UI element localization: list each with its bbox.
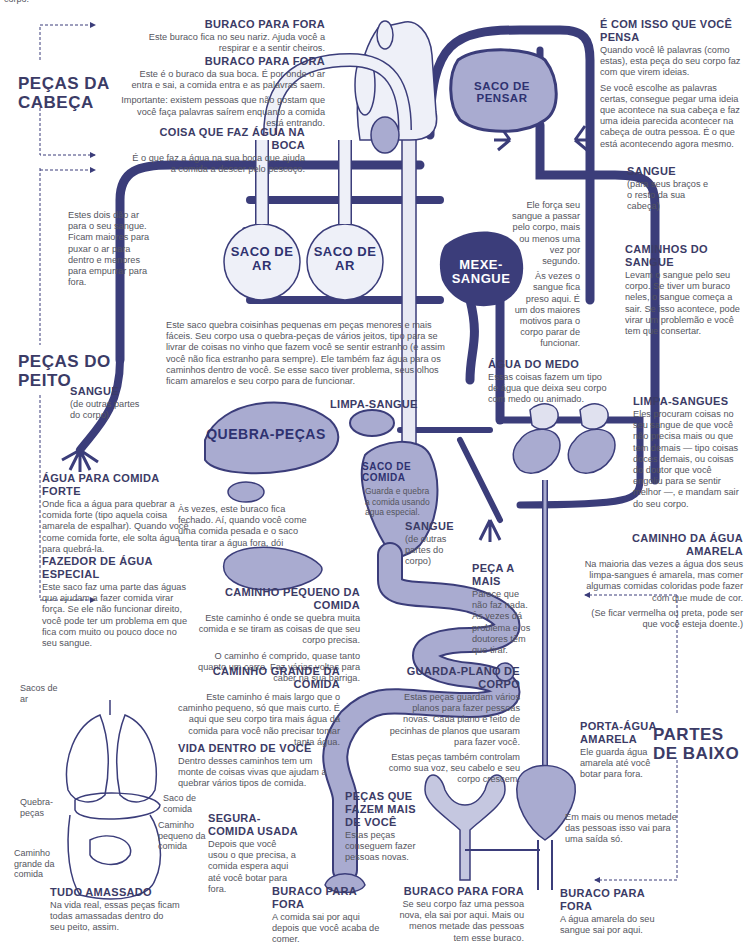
label-blood-stomach-title: SANGUE — [405, 520, 460, 533]
label-nose: BURACO PARA FORA Este buraco fica no seu… — [130, 18, 325, 58]
organ-stomach-desc: Guarda e quebra a comida usando água esp… — [365, 486, 433, 518]
label-brain-text: Quando você lê palavras (como estas), es… — [600, 45, 745, 79]
label-large-intestine-text: Este caminho é mais largo que o caminho … — [170, 692, 340, 748]
label-blood-stomach-text: (de outras partes do corpo) — [405, 534, 460, 568]
label-anus-text: A comida sai por aqui depois que você ac… — [272, 912, 387, 946]
label-lungs: Estes dois dão ar para o seu sangue. Fic… — [68, 210, 153, 292]
label-gut-flora-title: VIDA DENTRO DE VOCÊ — [178, 742, 328, 755]
label-ureter-text: Na maioria das vezes a água dos seus lim… — [578, 559, 743, 604]
organ-stomach-label: SACO DE COMIDA — [362, 462, 432, 483]
label-blood-arms: SANGUE (para seus braços e o resto da su… — [627, 165, 712, 217]
label-liver-text: Este saco quebra coisinhas pequenas em p… — [166, 320, 456, 387]
label-vagina-title: BURACO PARA FORA — [394, 885, 524, 898]
salivary-gland — [371, 117, 399, 153]
label-vessels-text: Levam o sangue pelo seu corpo. Se tiver … — [625, 270, 745, 337]
label-urethra: BURACO PARA FORA A água amarela do seu s… — [560, 887, 680, 940]
label-saliva-text: É o que faz a água na sua boca que ajuda… — [130, 153, 305, 175]
organ-lung-left-label: SACO DE AR — [226, 245, 298, 272]
label-blood-arms-text: (para seus braços e o resto da sua cabeç… — [627, 179, 712, 213]
label-urethra-note: Em mais ou menos metade das pessoas isso… — [565, 812, 680, 850]
label-brain: É COM ISSO QUE VOCÊ PENSA Quando você lê… — [600, 18, 745, 154]
organ-lung-right-label: SACO DE AR — [309, 245, 381, 272]
label-blood-lower-title: SANGUE — [70, 385, 150, 398]
organ-brain-label: SACO DE PENSAR — [452, 80, 552, 104]
label-gut-flora: VIDA DENTRO DE VOCÊ Dentro desses caminh… — [178, 742, 328, 794]
label-gallbladder: ÁGUA PARA COMIDA FORTE Onde fica a água … — [42, 472, 192, 559]
label-anus-title: BURACO PARA FORA — [272, 885, 387, 911]
label-saliva: COISA QUE FAZ ÁGUA NA BOCA É o que faz a… — [130, 126, 305, 179]
spleen-shape — [350, 410, 394, 436]
label-spleen-title: LIMPA-SANGUE — [330, 398, 420, 411]
label-heart-text2: Às vezes o sangue fica preso aqui. É um … — [512, 271, 580, 349]
label-gallbladder-text: Onde fica a água para quebrar a comida f… — [42, 499, 192, 555]
label-rectum-title: SEGURA-COMIDA USADA — [208, 812, 298, 838]
label-small-intestine-text: Este caminho é onde se quebra muita comi… — [190, 613, 360, 647]
label-uterus-title: PEÇAS QUE FAZEM MAIS DE VOCÊ — [345, 790, 435, 829]
label-ovaries-text2: Estas peças também controlam como sua vo… — [385, 752, 520, 786]
label-nose-title: BURACO PARA FORA — [130, 18, 325, 31]
label-brain-title: É COM ISSO QUE VOCÊ PENSA — [600, 18, 745, 44]
inset-text: Na vida real, essas peças ficam todas am… — [50, 900, 180, 934]
label-small-intestine-title: CAMINHO PEQUENO DA COMIDA — [190, 586, 360, 612]
inset-callout-large-intestine: Caminho grande da comida — [14, 848, 69, 880]
label-liver: Este saco quebra coisinhas pequenas em p… — [166, 320, 456, 391]
label-mouth-text: Este é o buraco da sua boca. É por onde … — [120, 69, 325, 91]
label-spleen: LIMPA-SANGUE — [330, 398, 420, 412]
label-vagina: BURACO PARA FORA Se seu corpo faz uma pe… — [394, 885, 524, 946]
label-saliva-title: COISA QUE FAZ ÁGUA NA BOCA — [130, 126, 305, 152]
label-ureter: CAMINHO DA ÁGUA AMARELA Na maioria das v… — [578, 532, 743, 634]
label-vessels-title: CAMINHOS DO SANGUE — [625, 243, 745, 269]
label-heart-text: Ele força seu sangue a passar pelo corpo… — [512, 200, 580, 267]
uterus-shape — [425, 775, 505, 880]
label-vagina-text: Se seu corpo faz uma pessoa nova, ela sa… — [394, 899, 524, 944]
kidneys — [513, 404, 615, 473]
label-urethra-title: BURACO PARA FORA — [560, 887, 680, 913]
urethra-shape — [538, 840, 552, 890]
label-kidneys-text: Eles procuram coisas no seu sangue de qu… — [633, 409, 743, 510]
label-lungs-text: Estes dois dão ar para o seu sangue. Fic… — [68, 210, 153, 288]
label-pancreas-text: Este saco faz uma parte das águas que aj… — [42, 582, 192, 649]
label-blood-lower: SANGUE (de outras partes do corpo) — [70, 385, 150, 425]
section-lower-title: PARTES DE BAIXO — [653, 725, 743, 763]
label-pancreas: FAZEDOR DE ÁGUA ESPECIAL Este saco faz u… — [42, 555, 192, 653]
label-uterus: PEÇAS QUE FAZEM MAIS DE VOCÊ Estas peças… — [345, 790, 435, 868]
label-vessels: CAMINHOS DO SANGUE Levam o sangue pelo s… — [625, 243, 745, 341]
label-appendix-title: PEÇA A MAIS — [472, 562, 534, 588]
label-brain-text2: Se você escolhe as palavras certas, cons… — [600, 83, 745, 150]
label-gallbladder-title: ÁGUA PARA COMIDA FORTE — [42, 472, 192, 498]
label-ureter-text2: (Se ficar vermelha ou preta, pode ser qu… — [578, 608, 743, 630]
inset-callout-stomach: Saco de comida — [163, 793, 203, 814]
pancreas-shape — [224, 547, 322, 590]
label-kidneys: LIMPA-SANGUES Eles procuram coisas no se… — [633, 395, 743, 514]
label-nose-text: Este buraco fica no seu nariz. Ajuda voc… — [130, 32, 325, 54]
gallbladder-shape — [228, 482, 264, 502]
inset-title: TUDO AMASSADO — [50, 886, 180, 899]
label-ovaries: GUARDA-PLANO DE CORPO Estas peças guarda… — [385, 665, 520, 790]
label-adrenal-title: ÁGUA DO MEDO — [488, 358, 608, 371]
label-urethra-text: A água amarela do seu sangue sai por aqu… — [560, 914, 680, 936]
label-large-intestine: CAMINHO GRANDE DA COMIDA Este caminho é … — [170, 665, 340, 752]
label-ovaries-text: Estas peças guardam vários planos para f… — [385, 692, 520, 748]
label-kidneys-title: LIMPA-SANGUES — [633, 395, 743, 408]
label-ovaries-title: GUARDA-PLANO DE CORPO — [385, 665, 520, 691]
label-mouth-title: BURACO PARA FORA — [120, 55, 325, 68]
label-bladder: PORTA-ÁGUA AMARELA Ele guarda água amare… — [580, 720, 660, 785]
label-pancreas-title: FAZEDOR DE ÁGUA ESPECIAL — [42, 555, 192, 581]
inset-callout-small-intestine: Caminho pequeno da comida — [158, 820, 208, 852]
organ-heart-label: MEXE-SANGUE — [440, 258, 522, 285]
label-bladder-title: PORTA-ÁGUA AMARELA — [580, 720, 660, 746]
label-uterus-text: Estas peças conseguem fazer pessoas nova… — [345, 830, 435, 864]
section-head-title: PEÇAS DA CABEÇA — [18, 74, 128, 112]
inset-callout-liver: Quebra-peças — [20, 797, 60, 818]
organ-liver-label: QUEBRA-PEÇAS — [196, 427, 336, 442]
label-urethra-note-text: Em mais ou menos metade das pessoas isso… — [565, 812, 680, 846]
inset-callout-lungs: Sacos de ar — [20, 683, 60, 704]
top-fragment-text: corpo. — [4, 0, 29, 5]
label-adrenal-text: Essas coisas fazem um tipo de água que d… — [488, 372, 608, 406]
label-adrenal: ÁGUA DO MEDO Essas coisas fazem um tipo … — [488, 358, 608, 410]
inset-organs-drawing — [67, 700, 161, 899]
label-gallbladder-note: Às vezes, este buraco fica fechado. Aí, … — [178, 504, 313, 553]
label-appendix: PEÇA A MAIS Parece que não faz nada. Às … — [472, 562, 534, 660]
label-mouth-note: Importante: existem pessoas que não gost… — [120, 95, 325, 129]
label-ureter-title: CAMINHO DA ÁGUA AMARELA — [578, 532, 743, 558]
